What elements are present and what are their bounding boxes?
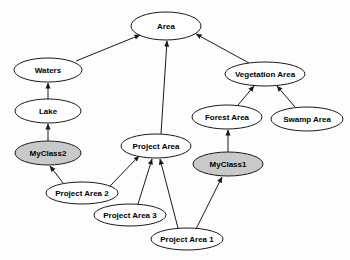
node-label-vegetation-area: Vegetation Area	[235, 70, 296, 79]
generalization-edge-projectarea3-to-projarea	[138, 159, 152, 204]
generalization-edge-forest-to-vegetation	[238, 86, 254, 105]
node-project-area-3[interactable]: Project Area 3	[94, 204, 166, 226]
node-lake[interactable]: Lake	[15, 99, 81, 123]
node-myclass2[interactable]: MyClass2	[15, 141, 81, 165]
node-vegetation-area[interactable]: Vegetation Area	[225, 62, 305, 86]
node-area[interactable]: Area	[131, 12, 201, 40]
node-project-area-2[interactable]: Project Area 2	[46, 182, 118, 204]
generalization-edge-vegetation-to-area	[196, 34, 249, 63]
graph-canvas: AreaWatersLakeMyClass2Vegetation AreaFor…	[0, 0, 350, 260]
nodes-layer: AreaWatersLakeMyClass2Vegetation AreaFor…	[14, 12, 343, 250]
generalization-edge-projectarea1-to-myclass1	[196, 177, 222, 229]
node-myclass1[interactable]: MyClass1	[193, 152, 263, 176]
node-forest-area[interactable]: Forest Area	[192, 105, 262, 129]
generalization-edge-projectarea2-to-projarea	[110, 156, 139, 186]
node-label-forest-area: Forest Area	[205, 113, 250, 122]
node-label-project-area-1: Project Area 1	[160, 235, 214, 244]
generalization-edge-projectarea2-to-myclass2	[50, 166, 63, 183]
generalization-edge-waters-to-area	[76, 35, 140, 61]
node-label-project-area: Project Area	[133, 142, 180, 151]
node-project-area-1[interactable]: Project Area 1	[151, 228, 223, 250]
node-label-project-area-2: Project Area 2	[55, 189, 109, 198]
generalization-edge-projectarea-to-area	[161, 41, 167, 134]
node-label-myclass2: MyClass2	[30, 149, 67, 158]
class-hierarchy-diagram: AreaWatersLakeMyClass2Vegetation AreaFor…	[0, 0, 350, 260]
node-label-project-area-3: Project Area 3	[103, 211, 157, 220]
generalization-edge-swamp-to-vegetation	[277, 86, 295, 107]
node-label-lake: Lake	[39, 107, 58, 116]
node-swamp-area[interactable]: Swamp Area	[271, 107, 343, 131]
node-label-swamp-area: Swamp Area	[283, 115, 331, 124]
node-project-area[interactable]: Project Area	[121, 134, 191, 158]
node-waters[interactable]: Waters	[14, 58, 82, 82]
node-label-myclass1: MyClass1	[210, 160, 247, 169]
node-label-waters: Waters	[35, 66, 62, 75]
node-label-area: Area	[157, 22, 175, 31]
